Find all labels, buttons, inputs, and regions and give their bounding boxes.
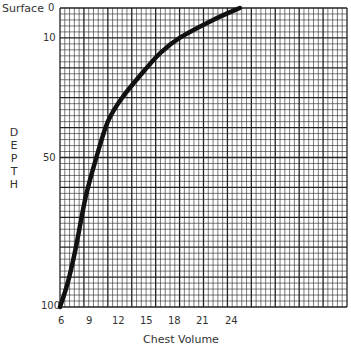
- x-tick-6: 6: [58, 315, 64, 326]
- x-tick-9: 9: [86, 315, 92, 326]
- x-tick-15: 15: [140, 315, 153, 326]
- grid: [60, 8, 347, 307]
- x-axis-label: Chest Volume: [143, 333, 219, 346]
- x-tick-18: 18: [168, 315, 181, 326]
- x-tick-21: 21: [196, 315, 209, 326]
- x-tick-24: 24: [225, 315, 238, 326]
- x-tick-12: 12: [112, 315, 125, 326]
- chart-plot: [0, 0, 351, 348]
